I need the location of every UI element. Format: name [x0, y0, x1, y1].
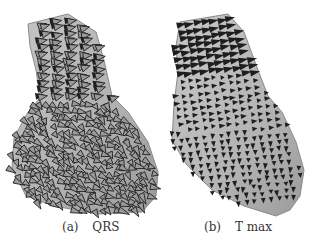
caption-a: (a) QRS [62, 220, 119, 234]
caption-b: (b) T max [204, 220, 272, 234]
figure: (a) QRS (b) T max [0, 0, 315, 243]
caption-a-label: (a) [62, 220, 79, 234]
heart-surface-plots [0, 0, 315, 243]
caption-a-title: QRS [92, 220, 119, 234]
panel-b-tmax [170, 14, 304, 216]
caption-b-title: T max [235, 220, 272, 234]
panel-a-qrs [6, 14, 161, 218]
caption-b-label: (b) [204, 220, 221, 234]
